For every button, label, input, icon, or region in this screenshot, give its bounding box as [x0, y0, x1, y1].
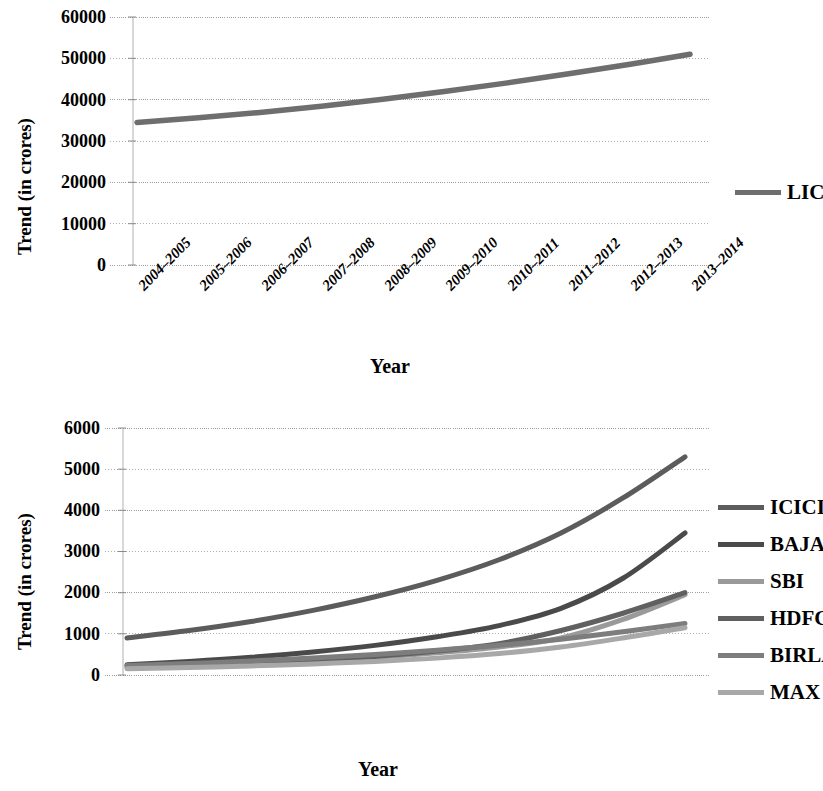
- lic-trend-figure: Trend (in crores) 60000 50000 40000 3000…: [0, 0, 823, 400]
- legend-label: SBI: [770, 569, 804, 594]
- legend-label: LICI: [787, 180, 823, 205]
- x-tick-label: 2010–2011: [504, 235, 563, 294]
- legend-swatch-icon: [718, 653, 764, 658]
- chart2-x-tick-labels: 2004–20052005–20062006–20072007–20082008…: [0, 400, 823, 791]
- legend-label: ICICI: [770, 495, 823, 520]
- legend-label: MAX: [770, 680, 820, 705]
- legend-item-max[interactable]: MAX: [718, 680, 820, 705]
- x-tick-label: 2013–2014: [688, 234, 748, 294]
- x-tick-label: 2012–2013: [627, 234, 687, 294]
- legend-item-icici[interactable]: ICICI: [718, 495, 823, 520]
- legend-label: BAJAJ: [770, 532, 823, 557]
- x-tick-label: 2008–2009: [381, 234, 441, 294]
- chart1-x-tick-labels: 2004–20052005–20062006–20072007–20082008…: [0, 0, 823, 400]
- x-tick-label: 2005–2006: [196, 234, 256, 294]
- private-insurers-trend-figure: Trend (in crores) 6000 5000 4000 3000 20…: [0, 400, 823, 791]
- legend-swatch-icon: [718, 690, 764, 695]
- x-tick-label: 2009–2010: [442, 234, 502, 294]
- legend-item-bajaj[interactable]: BAJAJ: [718, 532, 823, 557]
- chart1-x-axis-title: Year: [370, 355, 410, 378]
- legend-swatch-icon: [718, 579, 764, 584]
- x-tick-label: 2011–2012: [565, 235, 624, 294]
- chart2-x-axis-title: Year: [358, 758, 398, 781]
- legend-label: BIRLA: [770, 643, 823, 668]
- legend-swatch-icon: [718, 616, 764, 621]
- legend-label: HDFC: [770, 606, 823, 631]
- legend-swatch-icon: [718, 542, 764, 547]
- legend-item-hdfc[interactable]: HDFC: [718, 606, 823, 631]
- legend-swatch-icon: [718, 505, 764, 510]
- legend-item-sbi[interactable]: SBI: [718, 569, 804, 594]
- x-tick-label: 2006–2007: [258, 234, 318, 294]
- legend-swatch-icon: [735, 190, 781, 195]
- legend-item-birla[interactable]: BIRLA: [718, 643, 823, 668]
- legend-item-lici[interactable]: LICI: [735, 180, 823, 205]
- x-tick-label: 2007–2008: [319, 234, 379, 294]
- x-tick-label: 2004–2005: [135, 234, 195, 294]
